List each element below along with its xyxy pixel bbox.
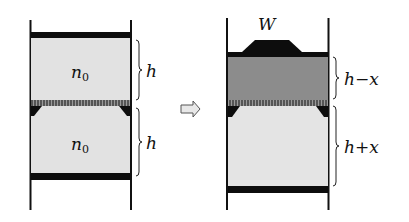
expanded-gas-chamber bbox=[228, 106, 328, 186]
piston-diagram: n0 n0 h h W h−x h+x bbox=[0, 0, 409, 222]
left-cylinder: n0 n0 h h bbox=[31, 20, 157, 210]
top-brace bbox=[333, 57, 339, 99]
membrane bbox=[31, 100, 130, 106]
top-piston bbox=[228, 52, 328, 57]
top-height-label: h bbox=[146, 61, 157, 81]
weight-block bbox=[242, 40, 302, 52]
bottom-piston bbox=[228, 186, 328, 193]
bottom-height-label: h+x bbox=[344, 137, 379, 157]
weight-label: W bbox=[258, 14, 277, 34]
membrane bbox=[228, 100, 328, 106]
bottom-height-label: h bbox=[146, 133, 157, 153]
right-cylinder: W h−x h+x bbox=[227, 14, 379, 210]
bottom-piston bbox=[31, 173, 130, 180]
top-height-label: h−x bbox=[344, 69, 379, 89]
bottom-brace bbox=[333, 106, 339, 186]
top-piston bbox=[31, 32, 130, 38]
compressed-gas-chamber bbox=[228, 57, 328, 100]
transition-arrow-icon bbox=[181, 101, 200, 117]
bottom-brace bbox=[136, 108, 142, 176]
top-brace bbox=[136, 40, 142, 100]
